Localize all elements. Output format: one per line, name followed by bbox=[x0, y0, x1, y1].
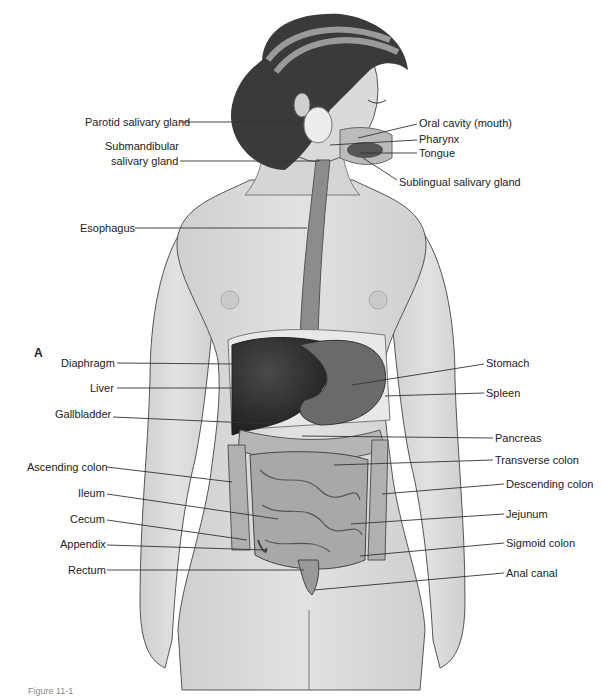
label-oral-cavity: Oral cavity (mouth) bbox=[419, 117, 512, 130]
label-anal-canal: Anal canal bbox=[506, 567, 557, 580]
label-stomach: Stomach bbox=[486, 357, 529, 370]
label-pharynx: Pharynx bbox=[419, 133, 459, 146]
label-submandibular-2: salivary gland bbox=[111, 155, 178, 168]
torso bbox=[177, 180, 426, 690]
leader-line-diaphragm bbox=[117, 363, 233, 364]
parotid-gland bbox=[304, 107, 332, 143]
label-descending-colon: Descending colon bbox=[506, 478, 593, 491]
label-cecum: Cecum bbox=[70, 513, 105, 526]
label-liver: Liver bbox=[90, 382, 114, 395]
label-jejunum: Jejunum bbox=[506, 508, 548, 521]
label-ascending-colon: Ascending colon bbox=[27, 461, 108, 474]
digestive-system-diagram: A Parotid salivary glandSubmandibularsal… bbox=[0, 0, 603, 697]
tongue bbox=[347, 142, 383, 158]
label-spleen: Spleen bbox=[486, 387, 520, 400]
label-sigmoid-colon: Sigmoid colon bbox=[506, 537, 575, 550]
label-appendix: Appendix bbox=[60, 538, 106, 551]
descending-colon bbox=[368, 440, 388, 560]
panel-letter: A bbox=[34, 346, 43, 360]
label-transverse-colon: Transverse colon bbox=[495, 454, 579, 467]
label-ileum: Ileum bbox=[78, 487, 105, 500]
label-gallbladder: Gallbladder bbox=[55, 408, 111, 421]
label-submandibular-1: Submandibular bbox=[105, 140, 179, 153]
anatomy-illustration bbox=[0, 0, 603, 697]
small-intestine bbox=[250, 452, 368, 569]
label-parotid: Parotid salivary gland bbox=[85, 116, 190, 129]
label-esophagus: Esophagus bbox=[80, 222, 135, 235]
figure-caption: Figure 11-1 bbox=[28, 686, 73, 696]
label-sublingual: Sublingual salivary gland bbox=[399, 176, 521, 189]
label-rectum: Rectum bbox=[68, 564, 106, 577]
label-tongue: Tongue bbox=[419, 147, 455, 160]
label-diaphragm: Diaphragm bbox=[61, 357, 115, 370]
label-pancreas: Pancreas bbox=[495, 432, 541, 445]
